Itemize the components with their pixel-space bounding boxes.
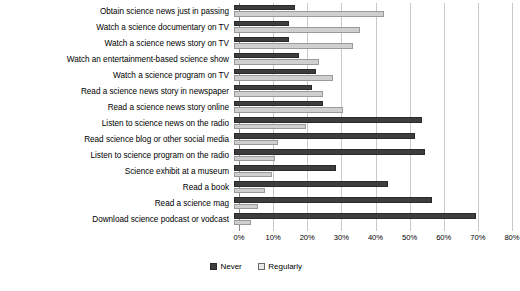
bar-regularly bbox=[234, 11, 384, 17]
bar-never bbox=[234, 5, 295, 11]
legend-swatch-icon bbox=[258, 263, 265, 270]
bar-never bbox=[234, 165, 336, 171]
category-label: Watch an entertainment-based science sho… bbox=[0, 55, 234, 64]
category-label: Read science blog or other social media bbox=[0, 135, 234, 144]
chart-row: Watch a science program on TV bbox=[0, 67, 512, 83]
row-bars bbox=[234, 212, 507, 228]
row-bars bbox=[234, 115, 507, 131]
bar-never bbox=[234, 37, 289, 43]
chart-row: Download science podcast or vodcast bbox=[0, 212, 512, 228]
chart-row: Read a science news story in newspaper bbox=[0, 83, 512, 99]
bar-regularly bbox=[234, 75, 333, 81]
chart-row: Read science blog or other social media bbox=[0, 131, 512, 147]
x-tick-label: 50% bbox=[402, 233, 417, 242]
row-bars bbox=[234, 180, 507, 196]
bar-never bbox=[234, 53, 299, 59]
row-bars bbox=[234, 19, 507, 35]
legend-item-regularly[interactable]: Regularly bbox=[258, 262, 302, 271]
category-label: Listen to science program on the radio bbox=[0, 151, 234, 160]
bar-regularly bbox=[234, 43, 353, 49]
legend-label: Regularly bbox=[268, 262, 302, 271]
chart-rows: Obtain science news just in passingWatch… bbox=[0, 3, 512, 228]
bar-regularly bbox=[234, 27, 360, 33]
row-bars bbox=[234, 67, 507, 83]
category-label: Read a science news story in newspaper bbox=[0, 87, 234, 96]
category-label: Read a science mag bbox=[0, 199, 234, 208]
category-label: Read a science news story online bbox=[0, 103, 234, 112]
row-bars bbox=[234, 147, 507, 163]
bar-regularly bbox=[234, 172, 272, 178]
chart-row: Watch a science documentary on TV bbox=[0, 19, 512, 35]
bar-regularly bbox=[234, 124, 306, 130]
bar-regularly bbox=[234, 156, 275, 162]
x-axis: 0%10%20%30%40%50%60%70%80% bbox=[239, 233, 512, 247]
bar-never bbox=[234, 85, 312, 91]
bar-never bbox=[234, 213, 476, 219]
category-label: Listen to science news on the radio bbox=[0, 119, 234, 128]
chart-legend: NeverRegularly bbox=[0, 262, 512, 271]
chart-row: Watch a science news story on TV bbox=[0, 35, 512, 51]
legend-item-never[interactable]: Never bbox=[210, 262, 242, 271]
row-bars bbox=[234, 163, 507, 179]
bar-never bbox=[234, 117, 422, 123]
bar-regularly bbox=[234, 204, 258, 210]
x-tick-label: 40% bbox=[368, 233, 383, 242]
category-label: Watch a science documentary on TV bbox=[0, 23, 234, 32]
bar-never bbox=[234, 133, 415, 139]
chart-row: Read a science news story online bbox=[0, 99, 512, 115]
bar-never bbox=[234, 101, 323, 107]
category-label: Watch a science program on TV bbox=[0, 71, 234, 80]
bar-regularly bbox=[234, 188, 265, 194]
legend-label: Never bbox=[220, 262, 241, 271]
category-label: Download science podcast or vodcast bbox=[0, 215, 234, 224]
chart-row: Listen to science program on the radio bbox=[0, 147, 512, 163]
category-label: Obtain science news just in passing bbox=[0, 7, 234, 16]
category-label: Watch a science news story on TV bbox=[0, 39, 234, 48]
chart-row: Read a science mag bbox=[0, 196, 512, 212]
bar-never bbox=[234, 181, 388, 187]
x-tick-label: 20% bbox=[300, 233, 315, 242]
row-bars bbox=[234, 3, 507, 19]
bar-never bbox=[234, 21, 289, 27]
row-bars bbox=[234, 99, 507, 115]
gridline-80 bbox=[512, 3, 513, 231]
x-tick-label: 0% bbox=[234, 233, 245, 242]
chart-row: Read a book bbox=[0, 180, 512, 196]
category-label: Read a book bbox=[0, 183, 234, 192]
bar-never bbox=[234, 149, 425, 155]
chart-row: Listen to science news on the radio bbox=[0, 115, 512, 131]
x-tick-label: 10% bbox=[266, 233, 281, 242]
bar-regularly bbox=[234, 59, 319, 65]
x-tick-label: 80% bbox=[504, 233, 519, 242]
bar-never bbox=[234, 69, 316, 75]
bar-regularly bbox=[234, 140, 278, 146]
bar-regularly bbox=[234, 220, 251, 226]
row-bars bbox=[234, 196, 507, 212]
x-tick-label: 30% bbox=[334, 233, 349, 242]
row-bars bbox=[234, 51, 507, 67]
bar-regularly bbox=[234, 91, 323, 97]
bar-regularly bbox=[234, 107, 343, 113]
row-bars bbox=[234, 83, 507, 99]
bar-never bbox=[234, 197, 432, 203]
row-bars bbox=[234, 35, 507, 51]
category-label: Science exhibit at a museum bbox=[0, 167, 234, 176]
chart-row: Obtain science news just in passing bbox=[0, 3, 512, 19]
x-tick-label: 60% bbox=[436, 233, 451, 242]
x-tick-label: 70% bbox=[470, 233, 485, 242]
chart-row: Science exhibit at a museum bbox=[0, 163, 512, 179]
chart-row: Watch an entertainment-based science sho… bbox=[0, 51, 512, 67]
legend-swatch-icon bbox=[210, 263, 217, 270]
row-bars bbox=[234, 131, 507, 147]
plot-area: Obtain science news just in passingWatch… bbox=[0, 0, 512, 246]
